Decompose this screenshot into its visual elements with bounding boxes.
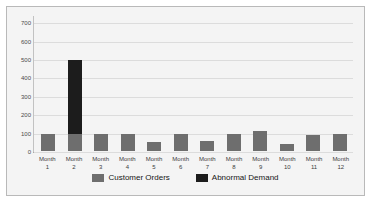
chart-frame: 0100200300400500600700 Month1Month2Month… (6, 6, 365, 196)
x-axis-tick-label: Month2 (61, 155, 88, 171)
x-axis-tick-label: Month11 (301, 155, 328, 171)
x-axis-tick-label: Month3 (87, 155, 114, 171)
y-axis-tick-label: 100 (21, 131, 31, 137)
chart-plot-area: 0100200300400500600700 (33, 16, 353, 153)
x-axis-tick-label: Month5 (141, 155, 168, 171)
gridline: 0 (34, 152, 353, 153)
y-axis-tick-label: 500 (21, 57, 31, 63)
bar-stack[interactable] (41, 134, 55, 151)
legend-item[interactable]: Customer Orders (92, 173, 169, 182)
x-axis-tick-label: Month1 (34, 155, 61, 171)
bar-stack[interactable] (333, 134, 347, 151)
bar-slot (300, 16, 327, 151)
bar-slot (88, 16, 115, 151)
y-axis-tick-label: 400 (21, 75, 31, 81)
x-axis-tick-label: Month6 (167, 155, 194, 171)
x-axis-tick-label: Month8 (221, 155, 248, 171)
chart-bars (35, 16, 353, 151)
bar-segment-customer-orders[interactable] (68, 134, 82, 151)
bar-slot (35, 16, 62, 151)
bar-segment-customer-orders[interactable] (227, 134, 241, 151)
bar-slot (115, 16, 142, 151)
bar-slot (274, 16, 301, 151)
chart-plot-wrapper: 0100200300400500600700 Month1Month2Month… (7, 7, 364, 195)
bar-slot (141, 16, 168, 151)
bar-stack[interactable] (200, 141, 214, 151)
bar-stack[interactable] (227, 134, 241, 151)
legend-item[interactable]: Abnormal Demand (196, 173, 279, 182)
bar-slot (62, 16, 89, 151)
x-axis-tick-label: Month10 (274, 155, 301, 171)
legend-label: Customer Orders (108, 173, 169, 182)
x-axis-tick-label: Month7 (194, 155, 221, 171)
bar-segment-customer-orders[interactable] (174, 134, 188, 151)
bar-segment-abnormal-demand[interactable] (68, 60, 82, 134)
bar-segment-customer-orders[interactable] (253, 131, 267, 151)
bar-stack[interactable] (306, 135, 320, 151)
bar-segment-customer-orders[interactable] (121, 134, 135, 151)
y-axis-tick-label: 300 (21, 94, 31, 100)
y-axis-tick-label: 600 (21, 39, 31, 45)
chart-x-axis-labels: Month1Month2Month3Month4Month5Month6Mont… (34, 155, 354, 171)
x-axis-tick-label: Month12 (327, 155, 354, 171)
chart-legend: Customer OrdersAbnormal Demand (7, 173, 364, 182)
x-axis-tick-label: Month9 (247, 155, 274, 171)
bar-segment-customer-orders[interactable] (147, 142, 161, 151)
bar-stack[interactable] (121, 134, 135, 151)
bar-slot (327, 16, 354, 151)
y-axis-tick-label: 700 (21, 20, 31, 26)
bar-segment-customer-orders[interactable] (306, 135, 320, 151)
bar-segment-customer-orders[interactable] (280, 144, 294, 151)
bar-slot (194, 16, 221, 151)
y-axis-tick-label: 0 (28, 149, 31, 155)
bar-stack[interactable] (253, 131, 267, 151)
bar-stack[interactable] (94, 134, 108, 151)
bar-slot (247, 16, 274, 151)
bar-stack[interactable] (147, 142, 161, 151)
x-axis-tick-label: Month4 (114, 155, 141, 171)
legend-label: Abnormal Demand (212, 173, 279, 182)
bar-stack[interactable] (68, 60, 82, 151)
bar-stack[interactable] (280, 144, 294, 151)
y-axis-tick-label: 200 (21, 112, 31, 118)
bar-segment-customer-orders[interactable] (200, 141, 214, 151)
bar-slot (168, 16, 195, 151)
bar-segment-customer-orders[interactable] (333, 134, 347, 151)
bar-slot (221, 16, 248, 151)
bar-segment-customer-orders[interactable] (41, 134, 55, 151)
legend-swatch-icon (196, 174, 208, 182)
bar-segment-customer-orders[interactable] (94, 134, 108, 151)
bar-stack[interactable] (174, 134, 188, 151)
legend-swatch-icon (92, 174, 104, 182)
